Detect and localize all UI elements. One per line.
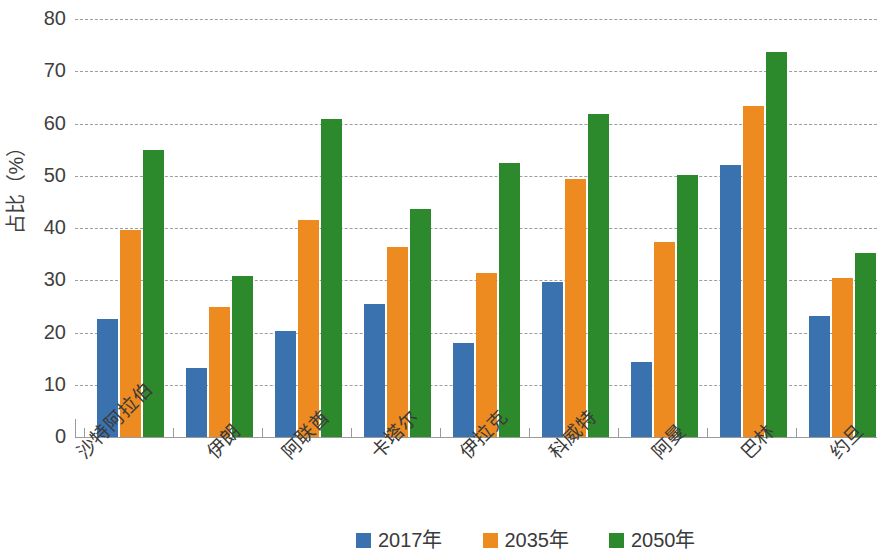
bar[interactable] bbox=[321, 119, 342, 437]
y-tick-label-40: 40 bbox=[8, 217, 66, 237]
legend-label: 2035年 bbox=[505, 530, 570, 550]
bar[interactable] bbox=[410, 209, 431, 437]
bar[interactable] bbox=[275, 331, 296, 437]
legend-swatch-icon bbox=[483, 533, 498, 548]
x-tick-mark bbox=[440, 428, 441, 437]
bar-group bbox=[97, 19, 164, 437]
bar[interactable] bbox=[720, 165, 741, 437]
legend-item[interactable]: 2050年 bbox=[609, 530, 696, 550]
bar-group bbox=[542, 19, 609, 437]
bar[interactable] bbox=[832, 278, 853, 437]
bar[interactable] bbox=[743, 106, 764, 437]
bar-group bbox=[186, 19, 253, 437]
bar[interactable] bbox=[499, 163, 520, 437]
bar[interactable] bbox=[654, 242, 675, 437]
y-tick-label-30: 30 bbox=[8, 269, 66, 289]
bar[interactable] bbox=[766, 52, 787, 437]
legend-swatch-icon bbox=[356, 533, 371, 548]
bar[interactable] bbox=[364, 304, 385, 437]
bar-group bbox=[275, 19, 342, 437]
bar[interactable] bbox=[809, 316, 830, 437]
bar[interactable] bbox=[565, 179, 586, 437]
x-tick-mark bbox=[262, 428, 263, 437]
legend-swatch-icon bbox=[609, 533, 624, 548]
bar[interactable] bbox=[186, 368, 207, 437]
x-tick-mark bbox=[796, 428, 797, 437]
bar[interactable] bbox=[542, 282, 563, 437]
y-tick-label-80: 80 bbox=[8, 8, 66, 28]
y-tick-label-50: 50 bbox=[8, 165, 66, 185]
bar-group bbox=[631, 19, 698, 437]
x-tick-mark bbox=[618, 428, 619, 437]
x-tick-mark bbox=[351, 428, 352, 437]
bar-group bbox=[809, 19, 876, 437]
legend-item[interactable]: 2035年 bbox=[483, 530, 570, 550]
bar-group bbox=[364, 19, 431, 437]
y-tick-label-0: 0 bbox=[8, 426, 66, 446]
bar-chart: 占比（%） 01020304050607080 沙特阿拉伯伊朗阿联酋卡塔尔伊拉克… bbox=[0, 0, 883, 554]
y-tick-label-10: 10 bbox=[8, 374, 66, 394]
bar[interactable] bbox=[588, 114, 609, 437]
y-tick-label-20: 20 bbox=[8, 322, 66, 342]
y-tick-label-70: 70 bbox=[8, 60, 66, 80]
chart-legend: 2017年2035年2050年 bbox=[356, 530, 696, 550]
bar[interactable] bbox=[453, 343, 474, 437]
plot-area bbox=[75, 19, 877, 437]
y-axis-line bbox=[75, 419, 76, 437]
bar-group bbox=[720, 19, 787, 437]
x-tick-mark bbox=[173, 428, 174, 437]
legend-label: 2050年 bbox=[631, 530, 696, 550]
x-tick-mark bbox=[529, 428, 530, 437]
bar[interactable] bbox=[677, 175, 698, 437]
bar[interactable] bbox=[631, 362, 652, 437]
bar[interactable] bbox=[855, 253, 876, 437]
bar-group bbox=[453, 19, 520, 437]
y-tick-label-60: 60 bbox=[8, 113, 66, 133]
legend-item[interactable]: 2017年 bbox=[356, 530, 443, 550]
bar[interactable] bbox=[232, 276, 253, 437]
legend-label: 2017年 bbox=[378, 530, 443, 550]
x-tick-mark bbox=[707, 428, 708, 437]
